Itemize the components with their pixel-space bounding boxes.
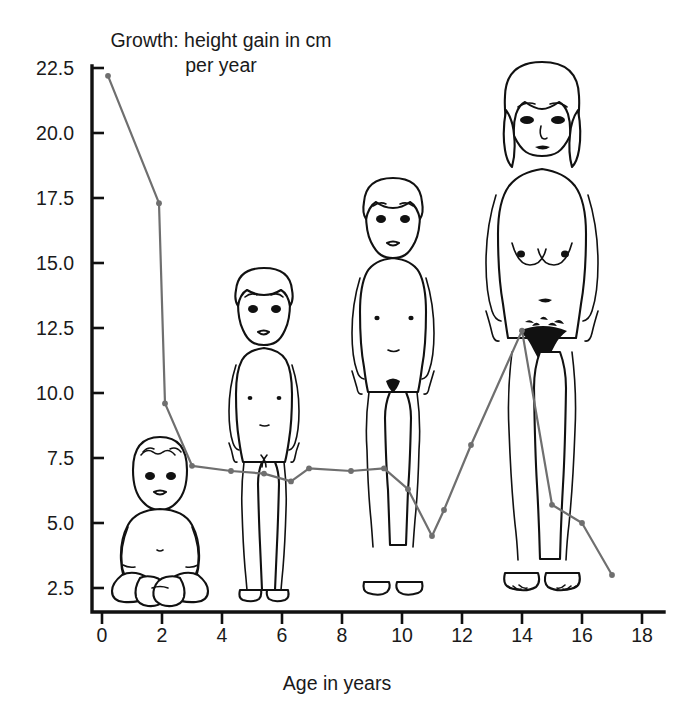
data-point [429, 533, 435, 539]
data-point [441, 507, 447, 513]
data-point [468, 442, 474, 448]
data-point [189, 463, 195, 469]
young-child-figure [229, 268, 299, 601]
data-point [405, 486, 411, 492]
infant-figure [112, 437, 208, 606]
adolescent-figure [486, 62, 598, 590]
data-point [228, 468, 234, 474]
chart-canvas: Growth: height gain in cm per year 22.5 … [0, 0, 674, 716]
data-point [288, 479, 294, 485]
data-point [162, 401, 168, 407]
data-point [549, 502, 555, 508]
data-point [381, 466, 387, 472]
data-point [348, 468, 354, 474]
data-point [306, 466, 312, 472]
older-child-figure [352, 178, 434, 595]
data-point [156, 200, 162, 206]
data-point [261, 471, 267, 477]
data-point [519, 328, 525, 334]
data-point [609, 572, 615, 578]
data-point [579, 520, 585, 526]
chart-graphics [0, 0, 674, 716]
data-point [105, 73, 111, 79]
